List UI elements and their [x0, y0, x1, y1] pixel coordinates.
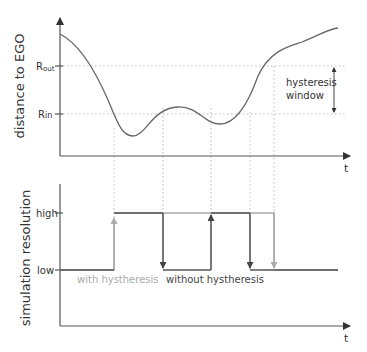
hysteresis-window-label-1: hysteresis: [286, 77, 337, 88]
bottom-axes: [55, 184, 350, 326]
bottom-xlabel: t: [344, 332, 349, 345]
r-in-label: Rin: [38, 109, 52, 120]
top-ylabel: distance to EGO: [12, 34, 27, 139]
hysteresis-diagram: distance to EGO Rout Rin hysteresis wind…: [0, 0, 367, 352]
bottom-ylabel: simulation resolution: [18, 190, 33, 326]
legend-without-hysteresis: without hystheresis: [166, 274, 264, 285]
high-label: high: [36, 208, 58, 219]
top-xlabel: t: [344, 162, 349, 175]
r-out-label: Rout: [36, 61, 55, 73]
with-hysteresis-signal: [60, 213, 338, 270]
without-hysteresis-signal: [60, 213, 338, 270]
low-label: low: [37, 265, 54, 276]
legend-with-hysteresis: with hystheresis: [77, 274, 159, 285]
hysteresis-window-label-2: window: [286, 90, 324, 101]
